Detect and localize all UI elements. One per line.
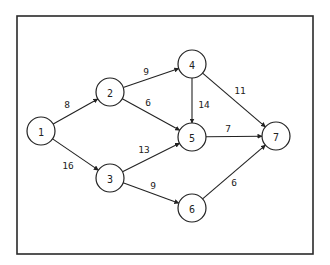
node-label: 2 <box>107 88 113 99</box>
node-6: 6 <box>178 194 206 222</box>
edge-weight-1-3: 16 <box>62 160 74 171</box>
node-3: 3 <box>96 164 124 192</box>
node-5: 5 <box>178 123 206 151</box>
edge-weight-4-7: 11 <box>234 85 246 96</box>
edge-labels-layer: 81696139141176 <box>62 66 246 191</box>
node-label: 6 <box>189 204 195 215</box>
node-label: 4 <box>189 60 195 71</box>
edge-3-5 <box>123 143 180 171</box>
edge-weight-1-2: 8 <box>64 99 70 110</box>
edge-1-2 <box>53 99 98 124</box>
node-1: 1 <box>27 117 55 145</box>
edge-weight-5-7: 7 <box>225 123 231 134</box>
edge-6-7 <box>203 145 266 199</box>
node-label: 7 <box>273 132 279 143</box>
node-label: 1 <box>38 127 44 138</box>
edge-weight-6-7: 6 <box>231 177 237 188</box>
edge-weight-2-4: 9 <box>143 66 149 77</box>
network-diagram: 81696139141176 1234567 <box>0 0 330 265</box>
node-label: 3 <box>107 174 113 185</box>
diagram-canvas: 81696139141176 1234567 <box>0 0 330 265</box>
edge-4-7 <box>203 73 266 127</box>
edge-1-3 <box>53 139 99 170</box>
node-7: 7 <box>262 122 290 150</box>
edge-5-7 <box>206 136 262 137</box>
edge-2-5 <box>122 99 179 131</box>
edge-weight-4-5: 14 <box>198 99 210 110</box>
edge-weight-2-5: 6 <box>145 97 151 108</box>
edge-weight-3-5: 13 <box>138 144 149 155</box>
node-4: 4 <box>178 50 206 78</box>
edge-2-4 <box>123 69 179 88</box>
edge-weight-3-6: 9 <box>150 180 156 191</box>
node-2: 2 <box>96 78 124 106</box>
node-label: 5 <box>189 133 195 144</box>
